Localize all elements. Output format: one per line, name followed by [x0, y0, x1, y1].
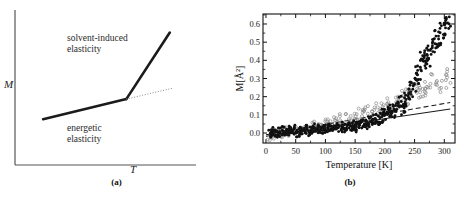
panel-b-xtick-label: 100 — [319, 146, 332, 156]
panel-b-ytick-label: 0.6 — [249, 19, 260, 29]
panel-b-filled-point — [310, 132, 313, 135]
panel-b-filled-point — [419, 51, 422, 54]
panel-b-filled-point — [278, 130, 281, 133]
panel-b-filled-point — [419, 78, 422, 81]
panel-a-caption: (a) — [0, 177, 233, 187]
panel-b-xtick-label: 0 — [264, 146, 268, 156]
panel-b-filled-point — [300, 133, 303, 136]
panel-b-filled-point — [305, 124, 308, 127]
panel-b-filled-point — [346, 125, 349, 128]
panel-b-filled-point — [379, 112, 382, 115]
panel-b-open-point — [429, 82, 432, 85]
panel-b-filled-point — [271, 129, 274, 132]
panel-b-filled-point — [323, 125, 326, 128]
panel-b-filled-point — [424, 64, 427, 67]
panel-a-series-solvent-induced-elasticity-regime — [126, 33, 170, 100]
panel-b-open-point — [445, 86, 448, 89]
panel-b-filled-point — [403, 111, 406, 114]
panel-b-filled-point — [409, 90, 412, 93]
panel-b-filled-point — [360, 119, 363, 122]
panel-b-filled-point — [444, 26, 447, 29]
panel-b-filled-point — [324, 128, 327, 131]
panel-b-filled-point — [429, 65, 432, 68]
panel-b-filled-point — [300, 126, 303, 129]
panel-b-filled-point — [368, 117, 371, 120]
panel-b-filled-point — [296, 130, 299, 133]
panel-b-filled-point — [336, 122, 339, 125]
panel-b-filled-point — [423, 52, 426, 55]
panel-b-open-point — [375, 102, 378, 105]
panel-b-filled-point — [374, 117, 377, 120]
panel-b-open-point — [419, 91, 422, 94]
panel-b-filled-point — [419, 66, 422, 69]
panel-b-filled-point — [424, 67, 427, 70]
panel-b-filled-point — [411, 95, 414, 98]
panel-b-x-axis-label: Temperature [K] — [326, 159, 393, 170]
panel-b-filled-point — [403, 104, 406, 107]
panel-b-filled-point — [437, 38, 440, 41]
panel-b-filled-point — [434, 42, 437, 45]
panel-b-filled-point — [348, 124, 351, 127]
panel-b-filled-point — [439, 22, 442, 25]
panel-b-xtick-label: 150 — [349, 146, 362, 156]
panel-b-ytick-label: 0.2 — [249, 92, 260, 102]
panel-b-open-point — [366, 112, 369, 115]
panel-b-filled-point — [337, 130, 340, 133]
panel-b-filled-point — [304, 131, 307, 134]
panel-b-filled-point — [388, 104, 391, 107]
panel-b-filled-point — [400, 100, 403, 103]
panel-b-open-point — [404, 88, 407, 91]
panel-b-filled-point — [374, 122, 377, 125]
panel-b-filled-point — [295, 135, 298, 138]
panel-b-filled-point — [437, 35, 440, 38]
panel-b-filled-point — [384, 118, 387, 121]
panel-b-filled-point — [349, 129, 352, 132]
panel-b-filled-point — [413, 83, 416, 86]
panel-b-filled-point — [388, 107, 391, 110]
panel-b-filled-point — [281, 133, 284, 136]
panel-b-xtick-label: 50 — [291, 146, 300, 156]
panel-b-filled-point — [420, 69, 423, 72]
panel-b-filled-point — [345, 128, 348, 131]
panel-b-open-point — [376, 106, 379, 109]
panel-b-filled-point — [276, 136, 279, 139]
panel-b-filled-point — [366, 127, 369, 130]
panel-b: 0501001502002503000.00.10.20.30.40.50.6 … — [233, 0, 467, 197]
panel-b-filled-point — [372, 113, 375, 116]
panel-b-filled-point — [341, 121, 344, 124]
panel-b-filled-point — [390, 112, 393, 115]
panel-b-filled-point — [319, 126, 322, 129]
panel-b-open-point — [357, 107, 360, 110]
panel-b-filled-point — [302, 128, 305, 131]
panel-b-filled-point — [371, 119, 374, 122]
panel-b-filled-point — [317, 129, 320, 132]
panel-b-filled-point — [410, 93, 413, 96]
panel-b-filled-point — [267, 129, 270, 132]
panel-b-filled-point — [426, 54, 429, 57]
panel-b-filled-point — [394, 114, 397, 117]
panel-b-xtick-label: 300 — [438, 146, 451, 156]
panel-b-filled-point — [416, 65, 419, 68]
panel-b-ytick-label: 0.4 — [249, 55, 260, 65]
panel-b-filled-point — [439, 27, 442, 30]
panel-b-xtick-label: 200 — [378, 146, 391, 156]
panel-b-filled-point — [311, 125, 314, 128]
panel-b-open-point — [401, 89, 404, 92]
panel-b-filled-point — [407, 88, 410, 91]
panel-b-filled-point — [443, 23, 446, 26]
panel-b-filled-point — [437, 30, 440, 33]
panel-a-x-axis-label: T — [130, 163, 136, 175]
panel-b-filled-point — [437, 45, 440, 48]
panel-b-filled-point — [328, 123, 331, 126]
panel-b-filled-point — [410, 81, 413, 84]
panel-b-filled-point — [398, 104, 401, 107]
panel-b-filled-point — [414, 78, 417, 81]
panel-b-filled-point — [293, 133, 296, 136]
panel-b-filled-point — [338, 125, 341, 128]
panel-b-filled-point — [414, 90, 417, 93]
panel-b-ytick-label: 0.3 — [249, 74, 260, 84]
panel-b-filled-point — [433, 29, 436, 32]
panel-b-open-point — [429, 86, 432, 89]
panel-b-filled-point — [393, 108, 396, 111]
panel-b-filled-point — [403, 92, 406, 95]
